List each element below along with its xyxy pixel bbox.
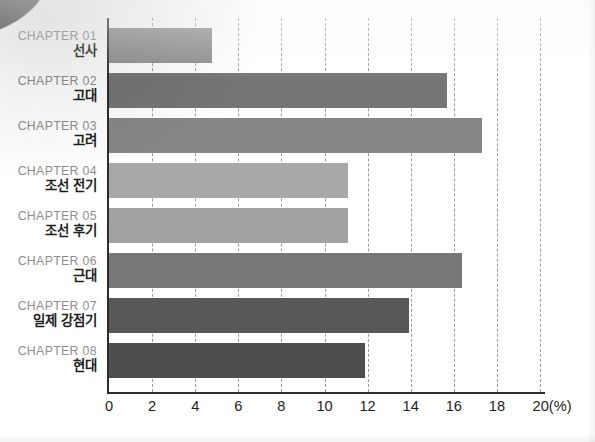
- horizontal-bar-chart: CHAPTER 01 선사 CHAPTER 02 고대 CHAPTER 03 고…: [0, 0, 595, 442]
- x-axis-line: [107, 392, 545, 394]
- category-name-text: 현대: [0, 359, 97, 373]
- category-label: CHAPTER 05 조선 후기: [0, 210, 106, 239]
- category-label: CHAPTER 02 고대: [0, 75, 106, 104]
- x-tick-label: 10: [316, 398, 332, 414]
- category-chapter-text: CHAPTER 02: [0, 75, 97, 88]
- gridline: [540, 18, 541, 392]
- x-tick-label: 2: [148, 398, 156, 414]
- category-chapter-text: CHAPTER 07: [0, 300, 97, 313]
- x-tick-label: 18: [489, 398, 505, 414]
- category-name-text: 고려: [0, 134, 97, 148]
- category-chapter-text: CHAPTER 08: [0, 345, 97, 358]
- bar: [109, 253, 462, 288]
- bar: [109, 118, 482, 153]
- category-name-text: 고대: [0, 89, 97, 103]
- bar: [109, 208, 348, 243]
- x-tick-label: 12: [359, 398, 375, 414]
- x-tick-label: 16: [446, 398, 462, 414]
- bar: [109, 73, 447, 108]
- category-chapter-text: CHAPTER 01: [0, 30, 97, 43]
- category-name-text: 일제 강점기: [0, 314, 97, 328]
- x-tick-label: 20(%): [533, 398, 572, 414]
- x-tick-label: 0: [105, 398, 113, 414]
- x-tick-label: 4: [191, 398, 199, 414]
- x-tick-label: 6: [234, 398, 242, 414]
- category-chapter-text: CHAPTER 06: [0, 255, 97, 268]
- x-tick-label: 8: [277, 398, 285, 414]
- category-label: CHAPTER 04 조선 전기: [0, 165, 106, 194]
- gridline: [454, 18, 455, 392]
- category-label: CHAPTER 08 현대: [0, 345, 106, 374]
- bar: [109, 163, 348, 198]
- gridline: [497, 18, 498, 392]
- bar: [109, 28, 212, 63]
- x-tick-label: 14: [403, 398, 419, 414]
- category-label: CHAPTER 07 일제 강점기: [0, 300, 106, 329]
- category-chapter-text: CHAPTER 04: [0, 165, 97, 178]
- category-name-text: 조선 후기: [0, 224, 97, 238]
- category-chapter-text: CHAPTER 03: [0, 120, 97, 133]
- category-label: CHAPTER 06 근대: [0, 255, 106, 284]
- category-name-text: 선사: [0, 44, 97, 58]
- category-name-text: 근대: [0, 269, 97, 283]
- category-label: CHAPTER 03 고려: [0, 120, 106, 149]
- category-chapter-text: CHAPTER 05: [0, 210, 97, 223]
- bar: [109, 298, 409, 333]
- category-label: CHAPTER 01 선사: [0, 30, 106, 59]
- bar: [109, 343, 365, 378]
- plot-area: 02468101214161820(%): [109, 24, 540, 392]
- category-name-text: 조선 전기: [0, 179, 97, 193]
